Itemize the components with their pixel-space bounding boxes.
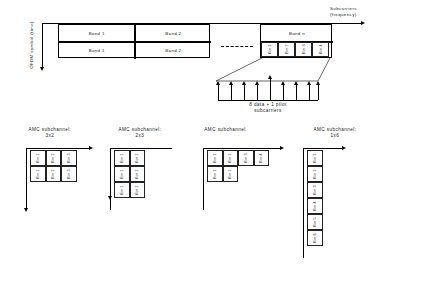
band-n-bin-3-label: Bin 3 [302, 44, 306, 54]
amc-group-2-axis-v [110, 148, 111, 210]
amc-group-1-bin-r1c1: Bin 1 [30, 150, 46, 166]
amc-group-2-bin-r3c2: Bin 2 [130, 182, 146, 198]
amc-group-3-bin-r1c1-label: Bin 1 [213, 153, 217, 163]
amc-group-1-bin-r1c2: Bin 2 [46, 150, 62, 166]
amc-group-3-axis-h [203, 148, 281, 149]
subcarrier-arrow-6 [281, 81, 285, 85]
amc-group-1-bin-r2c1-label: Bin 1 [36, 169, 40, 179]
band-n-bin-4-label: Bin 4 [319, 44, 323, 54]
amc-group-2-bin-r2c2-label: Bin 2 [135, 169, 139, 179]
band-n-bin-1: Bin 1 [261, 42, 278, 57]
pilot-subcarrier-stem [270, 79, 271, 100]
amc-group-2-bin-r3c1-label: Bin 1 [120, 185, 124, 195]
amc-group-1-bin-r1c1-label: Bin 1 [36, 153, 40, 163]
amc-group-4-bin-r5: Bin 5 [307, 214, 323, 230]
subcarrier-arrow-7 [294, 81, 298, 85]
amc-group-3-bin-r1c2-label: Bin 2 [228, 153, 232, 163]
amc-group-4-axis-h-arrow [342, 146, 346, 150]
diagram-canvas: Subcarriers (frequency) OFDM symbol (tim… [0, 0, 424, 288]
amc-group-3-axis-h-arrow [280, 146, 284, 150]
amc-group-4-bin-r4: Bin 4 [307, 198, 323, 214]
amc-group-3-bin-r1c4-label: Bin 4 [259, 153, 263, 163]
amc-group-1-axis-h [26, 148, 90, 149]
pilot-subcarrier-arrow [268, 75, 272, 79]
amc-group-4-axis-h [303, 148, 343, 149]
amc-group-4-bin-r5-label: Bin 5 [313, 217, 317, 227]
subcarriers-frequency-label: Subcarriers (frequency) [330, 6, 410, 18]
band-n-bin-3: Bin 3 [295, 42, 312, 57]
subcarrier-arrow-4 [255, 81, 259, 85]
subcarrier-stem-4 [257, 85, 258, 100]
amc-group-3-bin-r1c1: Bin 1 [207, 150, 223, 166]
amc-group-2-bin-r1c2-label: Bin 2 [135, 153, 139, 163]
band-n-label: Band n [261, 25, 333, 42]
amc-group-3-bin-r1c3: Bin 3 [238, 150, 254, 166]
amc-group-2-bin-r1c1-label: Bin 1 [120, 153, 124, 163]
subcarrier-arrow-3 [242, 81, 246, 85]
subcarrier-arrow-1 [216, 81, 220, 85]
amc-group-4-bin-r3: Bin 3 [307, 182, 323, 198]
amc-group-2-bin-r2c1: Bin 1 [114, 166, 130, 182]
amc-group-4-axis-v [303, 148, 304, 258]
amc-group-4-caption: AMC subchannel: 1x6 [295, 127, 375, 139]
amc-group-2-bin-r1c1: Bin 1 [114, 150, 130, 166]
ofdm-symbol-time-text: OFDM symbol (time) [29, 15, 35, 75]
amc-group-4-bin-r4-label: Bin 4 [313, 201, 317, 211]
band-cell-r2c2: Band 2 [136, 42, 211, 59]
band-continuation-dashes [221, 46, 253, 47]
amc-group-4-bin-r3-label: Bin 3 [313, 185, 317, 195]
subcarrier-stem-6 [283, 85, 284, 100]
amc-group-1-bin-r2c2-label: Bin 2 [51, 169, 55, 179]
subcarrier-arrow-2 [229, 81, 233, 85]
amc-group-2-bin-r3c2-label: Bin 2 [135, 185, 139, 195]
subcarrier-stem-8 [309, 85, 310, 100]
amc-group-2-axis-h [110, 148, 172, 149]
amc-group-3-caption: AMC subchannel [185, 127, 265, 133]
amc-group-1-bin-r2c3-label: Bin 3 [67, 169, 71, 179]
band-n-bin-4: Bin 4 [312, 42, 329, 57]
subcarrier-arrow-9 [316, 81, 320, 85]
amc-group-1-axis-v-arrow [24, 208, 28, 212]
band-cell-r2c1: Band 1 [59, 42, 134, 59]
amc-group-1-bin-r2c2: Bin 2 [46, 166, 62, 182]
amc-group-4-bin-r1-label: Bin 1 [313, 153, 317, 163]
amc-group-2-caption: AMC subchannel: 2x3 [100, 127, 180, 139]
amc-group-3-bin-r2c2-label: Bin 2 [228, 169, 232, 179]
amc-group-4-bin-r2: Bin 2 [307, 166, 323, 182]
band-n-bin-2-label: Bin 2 [285, 44, 289, 54]
amc-group-1-bin-r2c3: Bin 3 [61, 166, 77, 182]
amc-group-1-axis-v [26, 148, 27, 210]
amc-group-2-bin-r1c2: Bin 2 [130, 150, 146, 166]
subcarrier-bracket-baseline [218, 100, 318, 101]
amc-group-3-bin-r2c1: Bin 1 [207, 166, 223, 182]
amc-group-3-axis-v [203, 148, 204, 210]
amc-group-1-bin-r1c2-label: Bin 2 [51, 153, 55, 163]
amc-group-3-bin-r1c4: Bin 4 [254, 150, 270, 166]
amc-group-4-bin-r6-label: Bin 6 [313, 233, 317, 243]
subcarrier-stem-3 [244, 85, 245, 100]
amc-group-3-bin-r1c2: Bin 2 [223, 150, 239, 166]
amc-group-2-bin-r3c1: Bin 1 [114, 182, 130, 198]
band-cell-r1c2: Band 2 [136, 25, 211, 42]
amc-group-1-axis-h-arrow [89, 146, 93, 150]
subcarrier-stem-9 [318, 85, 319, 100]
amc-group-3-bin-r1c3-label: Bin 3 [244, 153, 248, 163]
band-n-bin-2: Bin 2 [278, 42, 295, 57]
subcarrier-fan-caption: 8 data + 1 pilot subcarriers [218, 102, 318, 114]
amc-group-1-bin-r1c3-label: Bin 3 [67, 153, 71, 163]
amc-group-1-bin-r2c1: Bin 1 [30, 166, 46, 182]
amc-group-3-bin-r2c2: Bin 2 [223, 166, 239, 182]
amc-group-1-caption: AMC subchannel: 3x2 [10, 127, 90, 139]
band-cell-r1c1: Band 1 [59, 25, 134, 42]
amc-group-2-axis-v-arrow [108, 196, 112, 200]
amc-group-2-bin-r2c1-label: Bin 1 [120, 169, 124, 179]
amc-group-2-bin-r2c2: Bin 2 [130, 166, 146, 182]
amc-group-4-bin-r2-label: Bin 2 [313, 169, 317, 179]
frequency-axis-arrow [361, 21, 365, 25]
subcarrier-stem-2 [231, 85, 232, 100]
band-grid: Band 1 Band 2 Band 1 Band 2 [58, 24, 210, 58]
amc-group-4-bin-r1: Bin 1 [307, 150, 323, 166]
subcarrier-arrow-8 [307, 81, 311, 85]
band-n-bin-1-label: Bin 1 [268, 44, 272, 54]
subcarrier-stem-1 [218, 85, 219, 100]
